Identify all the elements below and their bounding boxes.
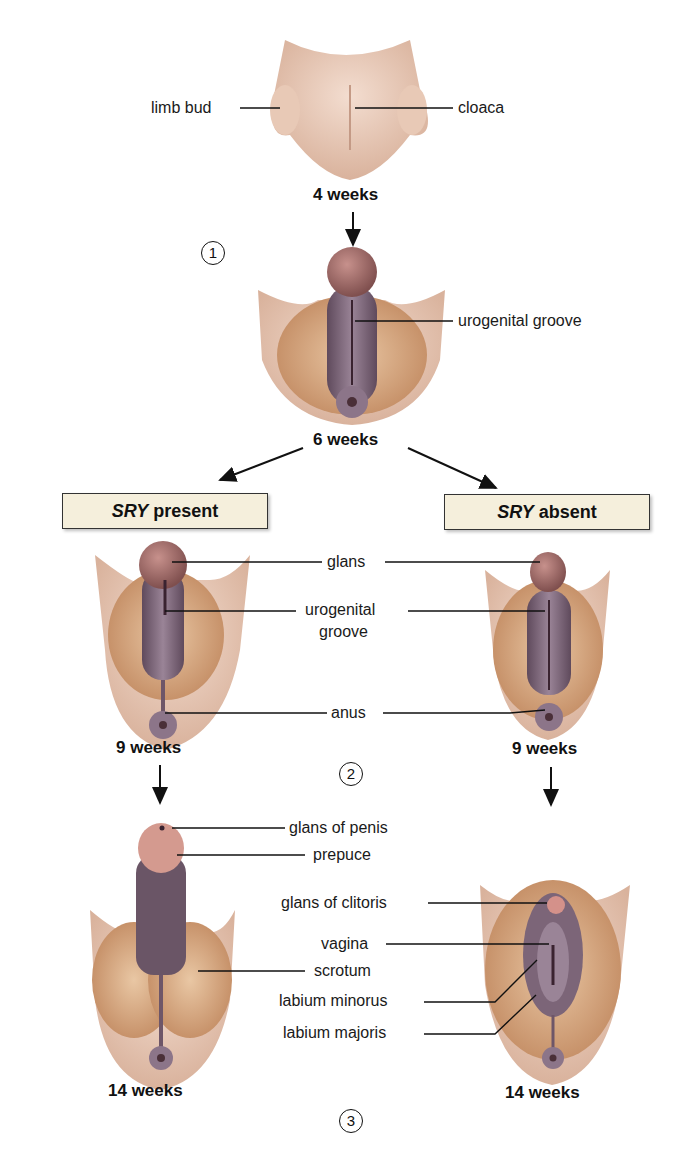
stage-14-weeks-female: 14 weeks — [505, 1083, 580, 1103]
label-labium-minorus: labium minorus — [279, 992, 387, 1010]
step-1-marker: 1 — [201, 241, 225, 265]
embryo-14-weeks-female — [480, 880, 630, 1085]
embryo-14-weeks-male — [90, 823, 235, 1090]
stage-9-weeks-female: 9 weeks — [512, 739, 577, 759]
step-3-marker: 3 — [339, 1109, 363, 1133]
label-scrotum: scrotum — [314, 962, 371, 980]
step-2-marker: 2 — [339, 762, 363, 786]
label-anus: anus — [331, 704, 366, 722]
label-glans: glans — [327, 553, 365, 571]
label-prepuce: prepuce — [313, 846, 371, 864]
label-cloaca: cloaca — [458, 99, 504, 117]
label-labium-majoris: labium majoris — [283, 1024, 386, 1042]
embryo-9-weeks-male — [95, 541, 250, 750]
stage-9-weeks-male: 9 weeks — [116, 738, 181, 758]
stage-4-weeks: 4 weeks — [313, 185, 378, 205]
label-groove: groove — [319, 623, 368, 641]
embryo-6-weeks — [258, 247, 445, 425]
label-urogenital-groove-6wk: urogenital groove — [458, 312, 582, 330]
embryo-4-weeks — [270, 40, 428, 180]
label-vagina: vagina — [321, 935, 368, 953]
stage-6-weeks: 6 weeks — [313, 430, 378, 450]
sry-present-box: SRY present — [62, 493, 268, 529]
label-glans-of-penis: glans of penis — [289, 819, 388, 837]
illustration-layer — [0, 0, 691, 1154]
label-limb-bud: limb bud — [151, 99, 211, 117]
label-glans-of-clitoris: glans of clitoris — [281, 894, 387, 912]
embryo-9-weeks-female — [485, 552, 610, 740]
label-urogenital: urogenital — [305, 601, 375, 619]
sry-absent-box: SRY absent — [444, 494, 650, 530]
stage-14-weeks-male: 14 weeks — [108, 1081, 183, 1101]
